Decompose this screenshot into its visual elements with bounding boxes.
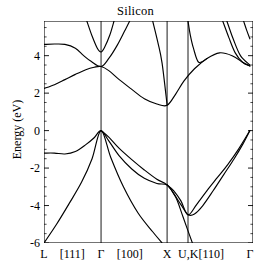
band-structure-plot [0, 0, 271, 272]
band-curve [44, 131, 162, 243]
y-tick-label: 0 [14, 125, 40, 137]
band-curve [87, 21, 114, 52]
band-curve [153, 21, 167, 105]
band-curve [101, 131, 192, 243]
band-curve [44, 21, 130, 67]
band-curve [188, 21, 207, 63]
y-tick-label: 2 [14, 87, 40, 99]
band-curve [244, 21, 250, 39]
x-tick-label: Γ [220, 248, 271, 260]
y-tick-label: 4 [14, 50, 40, 62]
band-curve [44, 53, 250, 106]
y-tick-label: -2 [14, 162, 40, 174]
y-tick-label: -4 [14, 200, 40, 212]
plot-frame [44, 21, 253, 243]
band-curve [44, 131, 250, 216]
